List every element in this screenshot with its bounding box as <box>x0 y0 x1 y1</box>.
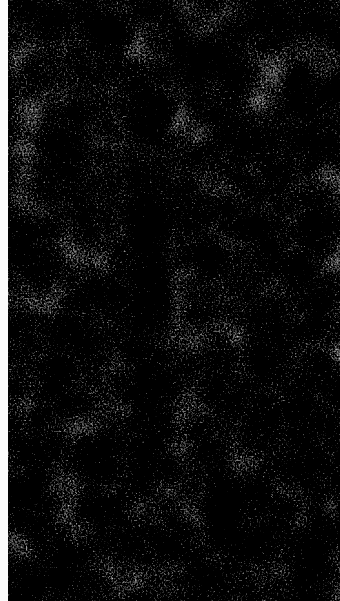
left-white-strip <box>0 0 8 601</box>
noise-texture <box>8 0 340 601</box>
image-canvas <box>0 0 340 601</box>
noise-texture-svg <box>8 0 340 601</box>
